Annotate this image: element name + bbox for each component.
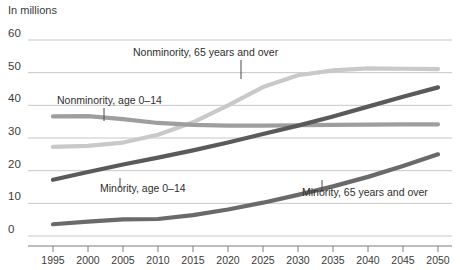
annotation-label-1: Nonminority, age 0–14 — [57, 94, 162, 106]
x-axis-tick-labels: 1995200020052010201520202025203020352040… — [41, 254, 450, 266]
y-tick-label-20: 20 — [8, 158, 21, 170]
chart-container: 0102030405060 19952000200520102015202020… — [0, 0, 460, 270]
y-tick-label-50: 50 — [8, 60, 21, 72]
x-tick-label-2000: 2000 — [76, 254, 100, 266]
series-line-1 — [53, 116, 438, 125]
x-tick-label-2050: 2050 — [426, 254, 450, 266]
units-label: In millions — [8, 4, 57, 16]
y-tick-label-40: 40 — [8, 92, 21, 104]
x-tick-label-2025: 2025 — [251, 254, 275, 266]
annotation-label-0: Nonminority, 65 years and over — [133, 46, 279, 58]
x-tick-label-2005: 2005 — [111, 254, 135, 266]
y-tick-label-10: 10 — [8, 190, 21, 202]
y-axis-tick-labels: 0102030405060 — [8, 27, 21, 235]
y-tick-label-60: 60 — [8, 27, 21, 39]
x-tick-label-2020: 2020 — [216, 254, 240, 266]
population-projection-line-chart: 0102030405060 19952000200520102015202020… — [0, 0, 460, 270]
x-tick-label-2010: 2010 — [146, 254, 170, 266]
x-tick-label-2015: 2015 — [181, 254, 205, 266]
x-tick-label-1995: 1995 — [41, 254, 65, 266]
annotation-label-3: Minority, 65 years and over — [302, 186, 428, 198]
series-line-0 — [53, 68, 438, 146]
x-tick-label-2040: 2040 — [356, 254, 380, 266]
data-series-lines — [53, 68, 438, 224]
x-axis — [28, 246, 452, 252]
y-tick-label-30: 30 — [8, 125, 21, 137]
x-tick-label-2035: 2035 — [321, 254, 345, 266]
y-tick-label-0: 0 — [8, 223, 14, 235]
x-tick-label-2045: 2045 — [391, 254, 415, 266]
x-tick-label-2030: 2030 — [286, 254, 310, 266]
annotation-label-2: Minority, age 0–14 — [100, 182, 186, 194]
